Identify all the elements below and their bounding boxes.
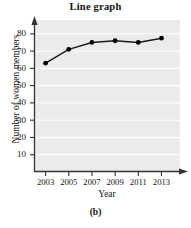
data-point — [113, 38, 118, 43]
x-axis-title: Year — [34, 189, 180, 199]
x-axis-tick-label: 2009 — [102, 178, 128, 187]
plot-canvas — [34, 20, 180, 172]
gridlines — [34, 34, 180, 155]
line-graph-figure: Line graph 1020304050607080 200320052007… — [0, 0, 191, 228]
x-axis-tick-label: 2005 — [56, 178, 82, 187]
y-axis-title: Number of women members — [11, 19, 21, 159]
data-point — [136, 40, 141, 45]
data-point — [90, 40, 95, 45]
plot-area — [34, 20, 180, 172]
data-point — [159, 36, 164, 41]
x-axis-tick-label: 2013 — [148, 178, 174, 187]
x-axis-tick-label: 2011 — [125, 178, 151, 187]
data-point — [43, 61, 48, 66]
chart-title: Line graph — [0, 1, 191, 12]
x-axis-arrow — [179, 168, 188, 174]
x-axis-tick-label: 2003 — [33, 178, 59, 187]
x-axis-tick-label: 2007 — [79, 178, 105, 187]
data-point — [66, 47, 71, 52]
figure-caption: (b) — [0, 207, 191, 217]
x-axis-ticks — [46, 172, 162, 176]
